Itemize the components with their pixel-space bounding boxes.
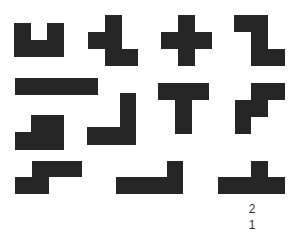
shape-block: [175, 83, 192, 134]
shape-block: [251, 83, 285, 100]
shape-block: [15, 78, 98, 95]
label-2: 2: [242, 203, 262, 216]
shape-block: [116, 177, 183, 194]
shape-block: [32, 161, 82, 177]
shape-block: [218, 177, 285, 194]
shape-block: [105, 49, 138, 66]
label-1: 1: [242, 219, 262, 232]
shape-block: [88, 32, 122, 49]
shape-block: [161, 32, 212, 49]
shape-block: [87, 127, 136, 145]
shape-block: [251, 49, 285, 66]
shape-block: [15, 132, 64, 150]
shape-block: [235, 100, 251, 134]
shape-block: [14, 40, 64, 57]
shape-block: [15, 177, 49, 194]
